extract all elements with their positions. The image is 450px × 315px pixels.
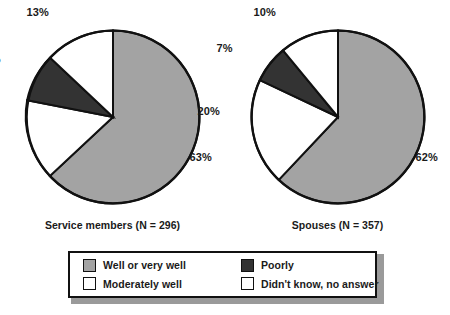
- pct-label-moderately-well: 20%: [198, 106, 220, 117]
- legend-label-moderately-well: Moderately well: [103, 278, 182, 290]
- legend-item-didnt-know: Didn't know, no answer: [241, 277, 379, 290]
- pie-chart-spouses: 10% 7% 20% 62%: [248, 27, 428, 207]
- legend-swatch-well-or-very-well: [83, 259, 96, 272]
- legend-swatch-didnt-know: [241, 277, 254, 290]
- legend-item-moderately-well: Moderately well: [83, 277, 241, 290]
- legend-label-didnt-know: Didn't know, no answer: [261, 278, 379, 290]
- pct-label-poorly: 7%: [217, 43, 233, 54]
- pct-label-poorly: 8%: [0, 54, 1, 65]
- pct-label-well-or-very-well: 62%: [416, 152, 438, 163]
- pie-caption-spouses: Spouses (N = 357): [225, 219, 450, 231]
- legend-item-well-or-very-well: Well or very well: [83, 259, 241, 272]
- pie-svg-service-members: [23, 27, 203, 207]
- pie-panel-service-members: 13% 8% 16% 63% Service members (N = 296): [0, 0, 225, 245]
- pct-label-well-or-very-well: 63%: [190, 152, 212, 163]
- pct-label-didnt-know: 13%: [27, 7, 49, 18]
- pie-panel-spouses: 10% 7% 20% 62% Spouses (N = 357): [225, 0, 450, 245]
- pie-svg-spouses: [248, 27, 428, 207]
- pie-chart-service-members: 13% 8% 16% 63%: [23, 27, 203, 207]
- pct-label-didnt-know: 10%: [254, 7, 276, 18]
- legend-label-well-or-very-well: Well or very well: [103, 259, 186, 271]
- legend-swatch-moderately-well: [83, 277, 96, 290]
- pie-caption-service-members: Service members (N = 296): [0, 219, 225, 231]
- legend-item-poorly: Poorly: [241, 259, 379, 272]
- figure-two-pie-charts: 13% 8% 16% 63% Service members (N = 296)…: [0, 0, 450, 315]
- legend-label-poorly: Poorly: [261, 259, 294, 271]
- legend-swatch-poorly: [241, 259, 254, 272]
- legend-box: Well or very well Poorly Moderately well…: [68, 251, 377, 298]
